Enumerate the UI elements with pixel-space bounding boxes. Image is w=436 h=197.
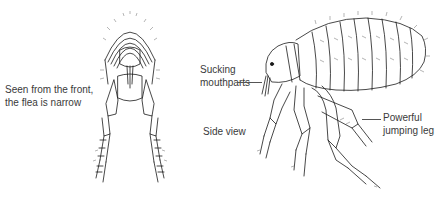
jumping-leg-leader-line — [362, 119, 381, 120]
mouthparts-label: Sucking mouthparts — [200, 64, 250, 89]
jumping-leg-label: Powerful jumping leg — [383, 112, 434, 137]
jumping-leg-label-line1: Powerful — [383, 112, 434, 125]
jumping-leg-label-line2: jumping leg — [383, 125, 434, 138]
side-view-caption: Side view — [203, 126, 246, 139]
flea-side-view-illustration — [256, 0, 436, 197]
mouthparts-leader-line — [237, 82, 262, 83]
mouthparts-label-line1: Sucking — [200, 64, 250, 77]
flea-front-view-illustration — [70, 0, 190, 197]
